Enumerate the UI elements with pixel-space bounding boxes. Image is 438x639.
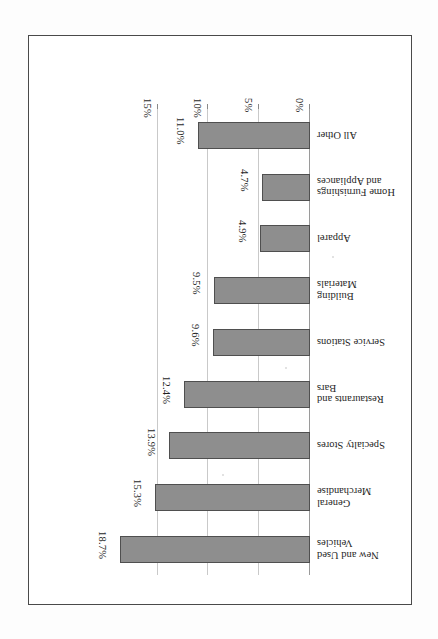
bar-value-label: 11.0% [175,117,186,145]
bar-row: 9.5%BuildingMaterials [107,264,310,316]
bar [120,536,310,563]
bar-value-label: 4.9% [237,220,248,243]
category-label-line: Materials [317,279,412,291]
category-label-line: Home Furnishings [317,187,412,199]
category-label-line: Merchandise [317,486,412,498]
bar [213,329,310,356]
category-label: All Other [317,129,412,141]
category-label: New and UsedVehicles [317,538,412,561]
bar [169,432,310,459]
scan-speck [332,256,334,258]
bar-value-label: 4.7% [239,169,250,192]
bar-row: 11.0%All Other [107,109,310,161]
bar-row: 13.9%Specialty Stores [107,420,310,472]
category-label-line: and Appliances [317,175,412,187]
category-label: GeneralMerchandise [317,486,412,509]
bar-value-label: 9.6% [190,324,201,347]
bar-value-label: 15.3% [132,479,143,507]
category-label: Home Furnishingsand Appliances [317,175,412,198]
bar-row: 12.4%Restaurants andBars [107,368,310,420]
category-label: Service Stations [317,336,412,348]
category-label: Specialty Stores [317,440,412,452]
category-label-line: Bars [317,382,412,394]
bar [262,174,310,201]
category-label-line: Specialty Stores [317,440,412,452]
bar [260,225,310,252]
category-label-line: Service Stations [317,336,412,348]
bar-row: 15.3%GeneralMerchandise [107,471,310,523]
category-label-line: Vehicles [317,538,412,550]
scanned-page: 0%5%10%15% 18.7%New and UsedVehicles15.3… [0,0,438,639]
bar-row: 18.7%New and UsedVehicles [107,523,310,575]
rotated-figure-container: 0%5%10%15% 18.7%New and UsedVehicles15.3… [0,0,438,639]
category-label-line: Restaurants and [317,394,412,406]
bar-value-label: 12.4% [161,376,172,404]
bar [214,277,310,304]
category-label: BuildingMaterials [317,279,412,302]
bar-value-label: 13.9% [146,428,157,456]
category-label-line: Building [317,290,412,302]
category-label-line: General [317,497,412,509]
plot-area: 0%5%10%15% 18.7%New and UsedVehicles15.3… [107,109,310,575]
category-label: Restaurants andBars [317,382,412,405]
bar [198,122,310,149]
bar-value-label: 18.7% [97,531,108,559]
bar [155,484,310,511]
bar-value-label: 9.5% [191,272,202,295]
bar-row: 4.9%Apparel [107,213,310,265]
bar [184,381,310,408]
scan-speck [285,367,287,369]
category-label-line: New and Used [317,549,412,561]
chart-frame: 0%5%10%15% 18.7%New and UsedVehicles15.3… [28,35,412,605]
category-label: Apparel [317,233,412,245]
bar-row: 4.7%Home Furnishingsand Appliances [107,161,310,213]
category-label-line: All Other [317,129,412,141]
category-label-line: Apparel [317,233,412,245]
bar-row: 9.6%Service Stations [107,316,310,368]
scan-speck [222,474,224,476]
